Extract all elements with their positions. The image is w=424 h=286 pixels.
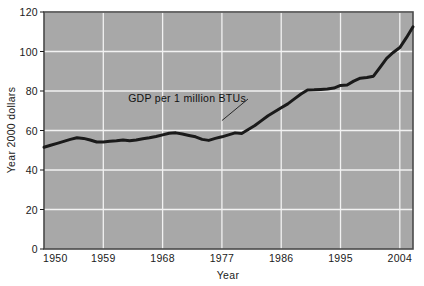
x-axis-tick-label: 1959 xyxy=(91,252,116,264)
y-axis-tick-label: 100 xyxy=(20,46,38,58)
x-axis-tick-label: 1977 xyxy=(210,252,235,264)
y-axis-tick-label: 80 xyxy=(26,85,38,97)
series-annotation-label: GDP per 1 million BTUs xyxy=(128,92,246,104)
y-axis-tick-label: 40 xyxy=(26,164,38,176)
x-axis-tick-label: 1968 xyxy=(150,252,175,264)
y-axis-tick-label: 120 xyxy=(20,6,38,18)
chart-container: GDP per 1 million BTUs 020406080100120 1… xyxy=(0,0,424,286)
x-axis-tick-label: 2004 xyxy=(388,252,413,264)
line-chart: GDP per 1 million BTUs 020406080100120 1… xyxy=(0,0,424,286)
y-axis-tick-label: 0 xyxy=(32,243,38,255)
x-axis-tick-label: 1995 xyxy=(328,252,353,264)
x-axis-tick-label: 1986 xyxy=(269,252,294,264)
y-axis-tick-label: 60 xyxy=(26,125,38,137)
x-axis-title: Year xyxy=(217,269,240,281)
y-axis-tick-label: 20 xyxy=(26,204,38,216)
y-axis-title: Year 2000 dollars xyxy=(5,87,17,173)
x-axis-tick-label: 1950 xyxy=(43,252,68,264)
